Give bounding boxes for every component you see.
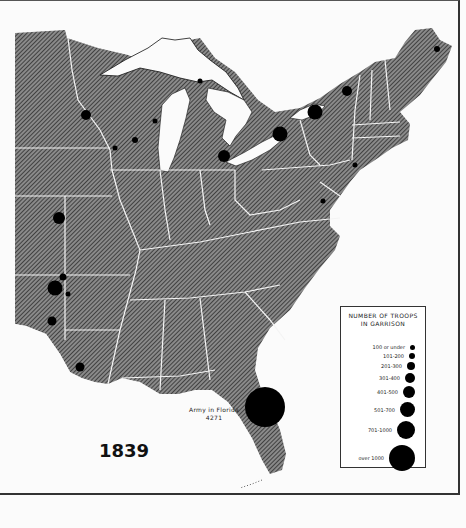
legend-item-label: 501-700 (374, 407, 395, 413)
garrison-marker-maine-northeast (434, 46, 440, 52)
garrison-marker-fort-gibson-north (60, 274, 67, 281)
legend-item-label: 301-400 (379, 375, 400, 381)
legend-item: over 1000 (359, 445, 415, 471)
legend-item: 100 or under (373, 344, 415, 350)
garrison-marker-lake-ontario (308, 105, 323, 120)
garrison-marker-fort-gibson (48, 281, 63, 296)
garrison-marker-upper-mississippi (81, 110, 91, 120)
legend-item: 701-1000 (368, 421, 415, 439)
legend-dot-icon (409, 353, 415, 359)
garrison-marker-green-bay (153, 119, 158, 124)
legend-item-label: over 1000 (359, 455, 384, 461)
garrison-marker-baltimore (321, 199, 326, 204)
legend-item: 201-300 (381, 362, 415, 370)
florida-army-label: Army in Florida (189, 406, 239, 414)
garrison-marker-buffalo (273, 127, 288, 142)
legend-item-label: 201-300 (381, 363, 402, 369)
garrison-marker-fort-smith (66, 292, 71, 297)
legend-item: 301-400 (379, 373, 415, 383)
legend-dot-icon (397, 421, 415, 439)
florida-keys (240, 480, 262, 488)
florida-army-value: 4271 (189, 414, 239, 422)
florida-army-annotation: Army in Florida 4271 (189, 406, 239, 422)
legend-item-label: 101-200 (383, 353, 404, 359)
garrison-marker-fort-jesup (76, 363, 85, 372)
legend-dot-icon (410, 345, 415, 350)
garrison-marker-fort-leavenworth (53, 212, 65, 224)
garrison-marker-prairie-du-chien (132, 137, 138, 143)
garrison-marker-fort-towson (48, 317, 57, 326)
legend-item-label: 401-500 (377, 389, 398, 395)
map-year: 1839 (99, 440, 149, 461)
legend-item: 501-700 (374, 402, 415, 417)
legend-item-label: 701-1000 (368, 427, 392, 433)
legend-item: 401-500 (377, 386, 415, 398)
garrison-marker-mackinac (198, 79, 203, 84)
legend-item-label: 100 or under (373, 344, 405, 350)
legend-dot-icon (407, 362, 415, 370)
garrison-marker-vermont-north (342, 86, 352, 96)
legend-dot-icon (400, 402, 415, 417)
legend: NUMBER OF TROOPS IN GARRISON 100 or unde… (340, 306, 426, 468)
garrison-marker-fort-crawford (113, 146, 118, 151)
legend-title-line1: NUMBER OF TROOPS (341, 312, 425, 320)
legend-title-line2: IN GARRISON (341, 320, 425, 328)
garrison-marker-new-york-harbor (353, 163, 358, 168)
garrison-marker-florida-army (245, 387, 285, 427)
garrison-marker-detroit (218, 150, 230, 162)
legend-item: 101-200 (383, 353, 415, 359)
legend-dot-icon (405, 373, 415, 383)
legend-title: NUMBER OF TROOPS IN GARRISON (341, 312, 425, 328)
legend-dot-icon (389, 445, 415, 471)
legend-dot-icon (403, 386, 415, 398)
